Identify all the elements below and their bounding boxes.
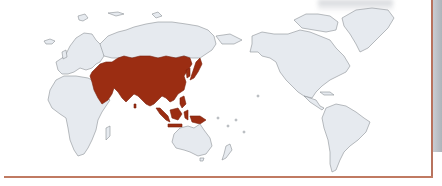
canadian-arctic: [294, 14, 338, 32]
japan: [190, 58, 202, 80]
chukotka: [216, 34, 242, 44]
borneo: [170, 108, 182, 120]
pacific-island: [257, 95, 259, 97]
new-zealand: [222, 144, 232, 160]
page-edge-strip: [433, 0, 442, 152]
madagascar: [106, 126, 110, 140]
world-map: [0, 0, 442, 186]
iceland: [44, 39, 55, 44]
sulawesi: [184, 110, 188, 120]
cuba: [320, 92, 334, 95]
greenland: [342, 8, 394, 52]
new-guinea: [190, 116, 206, 124]
uk: [62, 50, 67, 59]
world-map-figure: [0, 0, 442, 186]
frame-border-bottom: [4, 176, 433, 178]
pacific-island: [217, 117, 219, 119]
philippines: [180, 96, 186, 108]
asia-highlighted: [90, 56, 192, 106]
pacific-island: [243, 131, 245, 133]
south-america: [322, 104, 370, 172]
svalbard: [78, 14, 88, 21]
australia: [172, 124, 212, 156]
severnaya-zemlya: [152, 12, 162, 18]
korea: [186, 68, 190, 78]
pacific-island: [227, 125, 229, 127]
arctic-islands: [108, 12, 124, 16]
java: [168, 124, 182, 127]
pacific-island: [235, 119, 237, 121]
central-america: [304, 96, 324, 110]
sumatra: [156, 108, 170, 122]
sri-lanka: [134, 104, 136, 108]
north-america: [250, 30, 350, 98]
russia: [100, 22, 216, 58]
tasmania: [200, 158, 204, 161]
